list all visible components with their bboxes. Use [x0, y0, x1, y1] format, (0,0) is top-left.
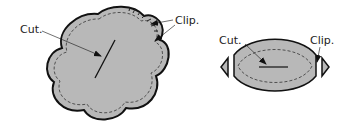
lens-shape [234, 39, 316, 91]
flower-figure [47, 7, 169, 120]
flower-cut-label: Cut. [20, 23, 42, 36]
flower-shape [47, 7, 169, 120]
left-clipped-triangle [221, 58, 228, 76]
lens-figure [221, 39, 329, 91]
lens-cut-label: Cut. [219, 34, 241, 47]
lens-clip-arrow [317, 47, 320, 62]
flower-clip-label: Clip. [175, 14, 199, 27]
right-clipped-triangle [322, 58, 329, 76]
lens-clip-label: Clip. [310, 34, 334, 47]
diagram-canvas: Cut. Clip. Cut. Clip. [0, 0, 350, 128]
